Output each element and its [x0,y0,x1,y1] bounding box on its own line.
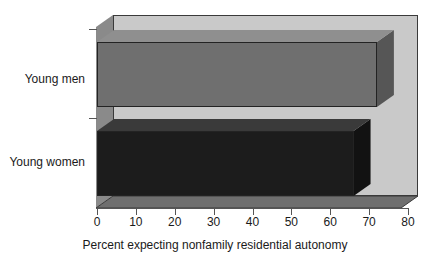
x-axis-tick-label: 20 [155,215,195,229]
category-label-young-men: Young men [0,72,85,86]
x-axis-tick-label: 10 [116,215,156,229]
bar-side-face [377,30,394,107]
category-label-young-women: Young women [0,155,85,169]
x-axis-tick-label: 50 [271,215,311,229]
x-axis-tick [253,208,254,215]
x-axis-tick [214,208,215,215]
x-axis-tick [369,208,370,215]
x-axis-tick [97,208,98,215]
bar-chart: Young men Young women 01020304050607080 … [0,0,430,265]
bar-young-men[interactable] [97,30,394,107]
bar-front-face [97,131,354,196]
x-axis-tick-label: 60 [310,215,350,229]
y-axis-tick [89,118,97,119]
x-axis-tick [175,208,176,215]
x-axis-tick [330,208,331,215]
x-axis-tick-label: 0 [77,215,117,229]
x-axis-tick [291,208,292,215]
x-axis-tick [136,208,137,215]
x-axis-tick [408,208,409,215]
x-axis-tick-label: 70 [349,215,389,229]
y-axis-tick [89,29,97,30]
bar-front-face [97,42,377,107]
x-axis-tick-label: 40 [233,215,273,229]
bar-side-face [354,119,371,196]
x-axis-tick-label: 30 [194,215,234,229]
bar-young-women[interactable] [97,119,371,196]
x-axis-title: Percent expecting nonfamily residential … [0,238,430,252]
x-axis-tick-label: 80 [388,215,428,229]
